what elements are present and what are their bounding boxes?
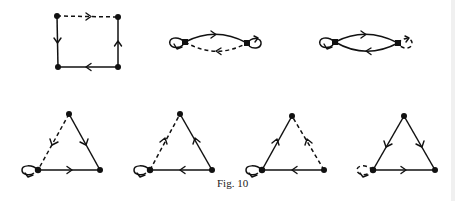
edge-left xyxy=(373,116,404,170)
node xyxy=(55,64,61,70)
arrow-up-icon xyxy=(160,138,167,144)
node xyxy=(370,167,376,173)
edge-arc-bottom xyxy=(335,42,398,51)
node xyxy=(66,111,72,117)
node xyxy=(177,111,183,117)
figure-caption: Fig. 10 xyxy=(217,177,248,189)
node xyxy=(259,167,265,173)
node xyxy=(432,167,438,173)
edge-right xyxy=(180,114,212,170)
node xyxy=(209,167,215,173)
page-edge-strip xyxy=(451,0,455,201)
diagram-square xyxy=(54,13,122,71)
arrow-up-icon xyxy=(272,139,279,145)
edge-right-dashed xyxy=(292,116,324,170)
node xyxy=(115,14,121,20)
node xyxy=(115,64,121,70)
node xyxy=(321,167,327,173)
edge-left xyxy=(262,116,292,170)
edge-arc-top xyxy=(335,34,398,43)
edge-left-dashed xyxy=(38,114,69,170)
node xyxy=(35,167,41,173)
edge-left-dashed xyxy=(150,114,180,170)
edge-right xyxy=(69,114,100,170)
node xyxy=(147,167,153,173)
diagram-triangle-4 xyxy=(357,113,438,177)
edge-top-dashed xyxy=(57,16,118,17)
diagram-two-node-a xyxy=(170,31,261,55)
node xyxy=(54,13,60,19)
node xyxy=(289,113,295,119)
edge-arc-bottom-dashed xyxy=(185,42,247,51)
node xyxy=(401,113,407,119)
node xyxy=(97,167,103,173)
node xyxy=(395,40,401,46)
edge-arc-top xyxy=(185,34,247,43)
diagram-triangle-1 xyxy=(22,111,103,177)
edge-right xyxy=(404,116,435,170)
diagram-triangle-3 xyxy=(246,113,327,177)
node xyxy=(332,39,338,45)
figure-canvas xyxy=(0,0,455,201)
diagram-two-node-b xyxy=(320,31,412,55)
node xyxy=(182,39,188,45)
node xyxy=(244,40,250,46)
diagram-triangle-2 xyxy=(134,111,215,177)
